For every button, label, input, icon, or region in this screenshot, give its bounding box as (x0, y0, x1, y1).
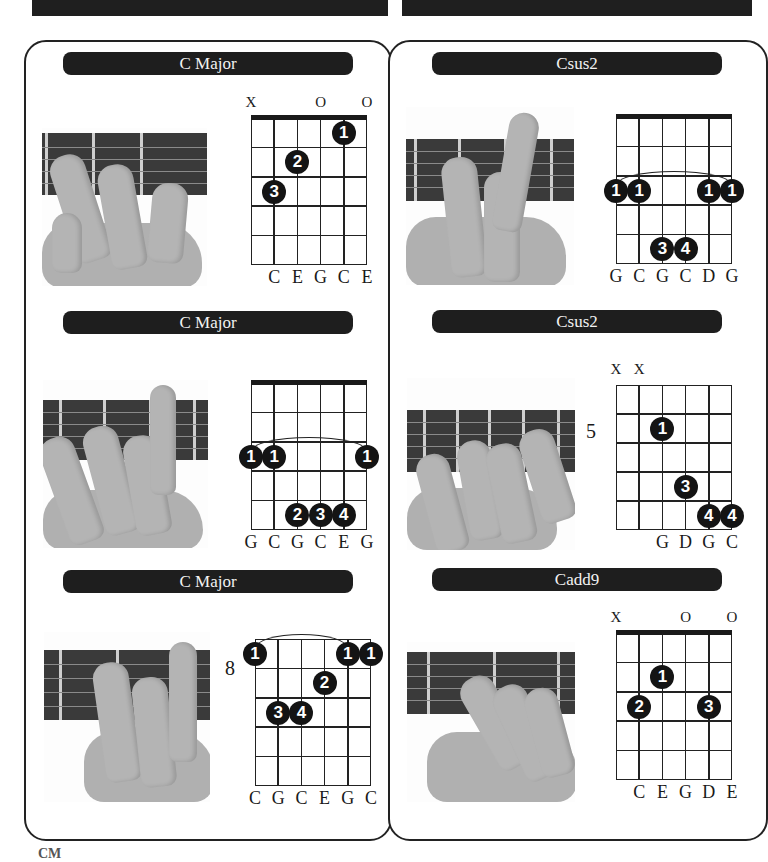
finger-dot: 2 (627, 695, 651, 719)
fret-number: 5 (586, 420, 596, 443)
fret-line (251, 235, 367, 237)
footer-text-fragment: CM (38, 846, 61, 862)
fret-line (251, 412, 367, 414)
hand-photo (406, 107, 574, 285)
note-label: G (245, 532, 258, 553)
chord-title: C Major (63, 311, 353, 334)
note-label: G (272, 788, 285, 809)
muted-string-marker: X (246, 94, 257, 111)
note-label: E (362, 267, 373, 288)
note-label: G (314, 267, 327, 288)
fret-line (255, 756, 371, 758)
hand-photo (407, 378, 575, 550)
note-label: G (361, 532, 374, 553)
open-string-marker: O (362, 94, 373, 111)
fret-line (616, 204, 732, 206)
note-label: C (315, 532, 327, 553)
note-label: G (610, 266, 623, 287)
hand-photo (407, 642, 575, 802)
fret-line (616, 413, 732, 415)
fret-line (616, 691, 732, 693)
muted-string-marker: X (611, 609, 622, 626)
finger-dot: 2 (285, 150, 309, 174)
open-string-marker: O (315, 94, 326, 111)
note-label: G (341, 788, 354, 809)
note-label: D (702, 266, 715, 287)
nut-bar (251, 380, 367, 385)
string-line (662, 385, 664, 530)
finger-dot: 3 (674, 475, 698, 499)
finger-dot: 1 (239, 445, 263, 469)
finger-dot: 1 (359, 642, 383, 666)
finger-dot: 1 (720, 179, 744, 203)
fret-line (255, 697, 371, 699)
fret-line (251, 205, 367, 207)
top-header-bar-right (402, 0, 752, 16)
fret-line (251, 470, 367, 472)
note-label: G (656, 266, 669, 287)
finger-dot: 1 (627, 179, 651, 203)
fret-line (616, 146, 732, 148)
fret-line (616, 662, 732, 664)
nut-bar (616, 630, 732, 635)
finger-dot: 1 (336, 642, 360, 666)
string-line (638, 385, 640, 530)
string-line (324, 639, 326, 786)
fret-line (616, 234, 732, 236)
fret-line (251, 176, 367, 178)
fret-line (255, 668, 371, 670)
finger-dot: 4 (674, 237, 698, 261)
finger-dot: 3 (309, 503, 333, 527)
note-label: C (633, 782, 645, 803)
finger-dot: 3 (650, 237, 674, 261)
finger-dot: 1 (604, 179, 628, 203)
note-label: E (338, 532, 349, 553)
note-label: C (295, 788, 307, 809)
finger-dot: 4 (697, 504, 721, 528)
note-label: C (726, 532, 738, 553)
fret-line (251, 147, 367, 149)
finger-dot: 3 (697, 695, 721, 719)
finger-dot: 2 (285, 503, 309, 527)
finger-dot: 1 (243, 642, 267, 666)
finger-dot: 3 (262, 180, 286, 204)
note-label: E (657, 782, 668, 803)
note-label: D (679, 532, 692, 553)
finger-dot: 1 (262, 445, 286, 469)
string-line (320, 118, 322, 265)
note-label: E (319, 788, 330, 809)
note-label: C (338, 267, 350, 288)
note-label: G (291, 532, 304, 553)
note-label: C (249, 788, 261, 809)
fret-line (616, 750, 732, 752)
fret-line (616, 471, 732, 473)
muted-string-marker: X (611, 361, 622, 378)
note-label: D (702, 782, 715, 803)
finger-dot: 1 (355, 445, 379, 469)
finger-dot: 1 (650, 665, 674, 689)
finger-dot: 1 (332, 121, 356, 145)
note-label: G (679, 782, 692, 803)
open-string-marker: O (727, 609, 738, 626)
chord-title: C Major (63, 52, 353, 75)
chord-title: Csus2 (432, 52, 722, 75)
note-label: C (633, 266, 645, 287)
fret-line (616, 720, 732, 722)
note-label: C (365, 788, 377, 809)
hand-photo (44, 632, 210, 802)
note-label: G (726, 266, 739, 287)
nut-bar (616, 114, 732, 119)
string-line (685, 633, 687, 780)
finger-dot: 1 (650, 417, 674, 441)
nut-bar (251, 115, 367, 120)
string-line (685, 385, 687, 530)
fret-number: 8 (225, 657, 235, 680)
chord-title: C Major (63, 570, 353, 593)
string-line (662, 633, 664, 780)
finger-dot: 1 (697, 179, 721, 203)
chord-title: Cadd9 (432, 568, 722, 591)
finger-dot: 4 (289, 701, 313, 725)
open-string-marker: O (680, 609, 691, 626)
note-label: C (268, 267, 280, 288)
hand-photo (43, 380, 208, 548)
